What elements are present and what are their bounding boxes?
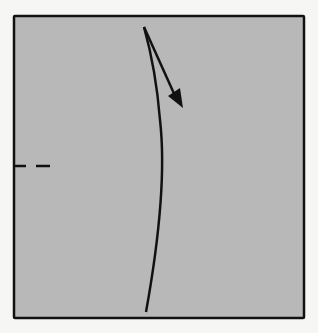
origami-diagram: [0, 0, 318, 333]
